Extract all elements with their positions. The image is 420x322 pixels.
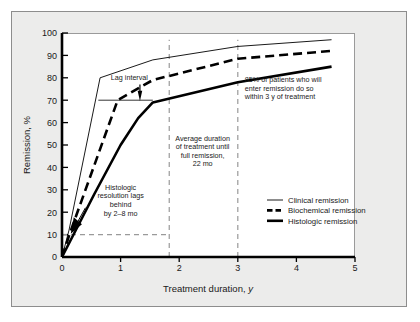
figure-root: 0102030405060708090100 012345 Lag interv… <box>0 0 420 322</box>
y-tick-label: 10 <box>47 230 57 240</box>
y-axis-tick-labels: 0102030405060708090100 <box>42 28 57 262</box>
lag-interval-arrow-head <box>138 91 143 101</box>
annotation-lag-interval: Lag interval <box>111 73 149 82</box>
x-tick-label: 1 <box>118 263 123 273</box>
y-tick-label: 40 <box>47 163 57 173</box>
y-tick-label: 0 <box>52 252 57 262</box>
y-tick-label: 70 <box>47 96 57 106</box>
x-axis-title: Treatment duration, y <box>163 283 254 294</box>
legend-label-biochemical-remission: Biochemical remission <box>288 206 366 215</box>
annotation-histologic-lag-note: Histologicresolution lagsbehindby 2–8 mo <box>97 183 144 218</box>
x-tick-label: 0 <box>59 263 64 273</box>
annotation-average-duration-note: Average durationof treatment untilfull r… <box>175 134 230 169</box>
y-tick-label: 20 <box>47 208 57 218</box>
annotation-eighty-five-percent-note: 85% of patients who willenter remission … <box>244 75 322 101</box>
remission-line-chart: 0102030405060708090100 012345 Lag interv… <box>0 0 420 322</box>
y-tick-label: 80 <box>47 73 57 83</box>
y-axis-title: Remission, % <box>21 115 32 174</box>
x-tick-label: 2 <box>177 263 182 273</box>
y-tick-label: 60 <box>47 118 57 128</box>
y-tick-label: 50 <box>47 140 57 150</box>
legend-label-histologic-remission: Histologic remission <box>288 217 357 226</box>
x-tick-label: 3 <box>235 263 240 273</box>
x-tick-label: 5 <box>352 263 357 273</box>
y-tick-label: 100 <box>42 28 57 38</box>
y-tick-label: 90 <box>47 51 57 61</box>
y-tick-label: 30 <box>47 185 57 195</box>
legend-label-clinical-remission: Clinical remission <box>288 196 349 205</box>
chart-legend: Clinical remissionBiochemical remissionH… <box>267 196 366 226</box>
x-tick-label: 4 <box>294 263 299 273</box>
annotations-group: Lag intervalHistologicresolution lagsbeh… <box>71 73 322 234</box>
x-axis-tick-labels: 012345 <box>59 263 357 273</box>
